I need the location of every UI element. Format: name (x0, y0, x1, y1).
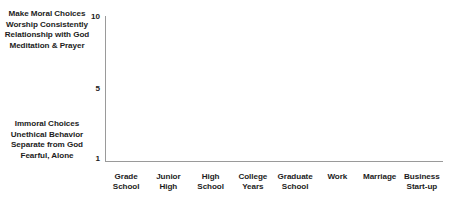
x-axis-category-graduate-school-line-2: School (274, 182, 316, 192)
x-axis-category-junior-high: Junior High (147, 172, 189, 202)
x-axis-category-marriage-line-1: Marriage (359, 172, 401, 182)
y-axis-tick-10: 10 (76, 12, 100, 22)
x-axis-category-junior-high-line-1: Junior (147, 172, 189, 182)
chart-canvas: Make Moral Choices Worship Consistently … (0, 0, 459, 207)
high-score-descriptor-line-4: Meditation & Prayer (3, 41, 91, 52)
x-axis-category-business-start-up-line-2: Start-up (401, 182, 443, 192)
x-axis-category-college-years-line-2: Years (232, 182, 274, 192)
x-axis-category-high-school-line-1: High (190, 172, 232, 182)
x-axis-category-graduate-school-line-1: Graduate (274, 172, 316, 182)
x-axis-category-work-line-1: Work (316, 172, 358, 182)
y-axis-tick-label-10: 10 (76, 12, 100, 21)
y-axis-tick-5: 5 (76, 84, 100, 94)
x-axis-category-grade-school-line-1: Grade (105, 172, 147, 182)
x-axis-category-business-start-up-line-1: Business (401, 172, 443, 182)
x-axis-category-high-school: High School (190, 172, 232, 202)
low-score-descriptor-line-1: Immoral Choices (3, 119, 91, 130)
low-score-descriptor-line-3: Separate from God (3, 140, 91, 151)
x-axis-line (105, 161, 443, 162)
high-score-descriptor-line-3: Relationship with God (3, 30, 91, 41)
plot-area (106, 16, 443, 161)
x-axis-category-grade-school-line-2: School (105, 182, 147, 192)
x-axis-category-labels: Grade School Junior High High School Col… (105, 172, 443, 202)
x-axis-category-work: Work (316, 172, 358, 202)
x-axis-category-high-school-line-2: School (190, 182, 232, 192)
y-axis-tick-label-5: 5 (76, 84, 100, 93)
x-axis-category-marriage: Marriage (359, 172, 401, 202)
x-axis-category-grade-school: Grade School (105, 172, 147, 202)
x-axis-category-college-years-line-1: College (232, 172, 274, 182)
x-axis-category-college-years: College Years (232, 172, 274, 202)
low-score-descriptor-line-2: Unethical Behavior (3, 130, 91, 141)
x-axis-category-business-start-up: Business Start-up (401, 172, 443, 202)
x-axis-category-graduate-school: Graduate School (274, 172, 316, 202)
y-axis-tick-label-1: 1 (76, 154, 100, 163)
y-axis-tick-1: 1 (76, 154, 100, 164)
x-axis-category-junior-high-line-2: High (147, 182, 189, 192)
